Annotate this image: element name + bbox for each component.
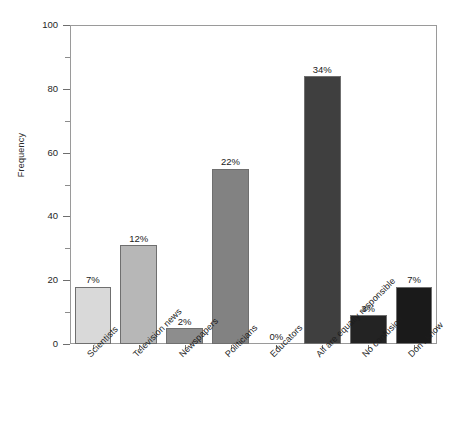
x-axis: ScientistsTelevision newsNewspapersPolit… — [0, 0, 461, 447]
x-axis-label: No confusion — [360, 314, 405, 359]
x-axis-label: Educators — [268, 323, 304, 359]
bar-chart: Frequency 020406080100 7%12%2%22%0%34%3%… — [0, 0, 461, 447]
x-axis-label: Politicians — [223, 323, 260, 360]
x-axis-label: Don't know — [406, 320, 445, 359]
x-axis-label: Television news — [131, 306, 184, 359]
x-axis-label: Scientists — [85, 324, 120, 359]
x-axis-label: All are equally responsible — [314, 276, 397, 359]
x-axis-label: Newspapers — [177, 316, 220, 359]
